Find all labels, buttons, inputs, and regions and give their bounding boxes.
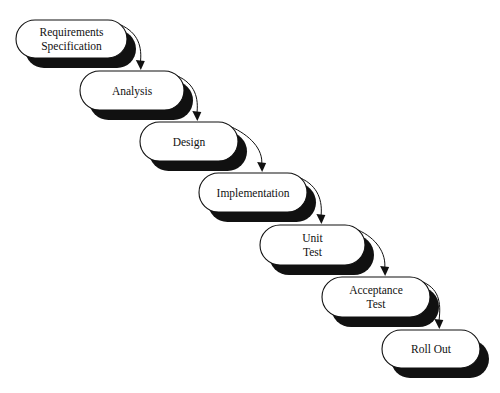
stage-design: Design	[140, 122, 238, 161]
stage-label: Implementation	[217, 187, 290, 200]
stage-label: Specification	[41, 40, 102, 53]
stage-label: Acceptance	[349, 284, 403, 297]
stage-label: Test	[303, 246, 323, 258]
stage-acceptance-test: AcceptanceTest	[322, 277, 430, 317]
stage-roll-out: Roll Out	[382, 330, 480, 368]
stage-label: Unit	[302, 232, 323, 244]
stage-unit-test: UnitTest	[260, 225, 365, 265]
arrowhead-icon	[316, 214, 325, 224]
arrowhead-icon	[257, 162, 266, 172]
arrowhead-icon	[136, 60, 145, 70]
waterfall-diagram: RequirementsSpecificationAnalysisDesignI…	[0, 0, 500, 393]
stage-requirements: RequirementsSpecification	[16, 20, 127, 58]
arrowhead-icon	[192, 111, 201, 121]
stage-label: Requirements	[40, 26, 104, 39]
stage-analysis: Analysis	[80, 71, 184, 110]
stage-label: Test	[367, 298, 387, 310]
arrowhead-icon	[380, 266, 389, 276]
stage-implementation: Implementation	[199, 173, 307, 212]
stage-box	[260, 225, 365, 265]
stage-label: Analysis	[112, 85, 153, 98]
stage-label: Design	[173, 136, 206, 149]
stages-layer: RequirementsSpecificationAnalysisDesignI…	[16, 20, 480, 368]
arrowhead-icon	[434, 319, 443, 329]
stage-box	[322, 277, 430, 317]
stage-label: Roll Out	[411, 343, 452, 355]
